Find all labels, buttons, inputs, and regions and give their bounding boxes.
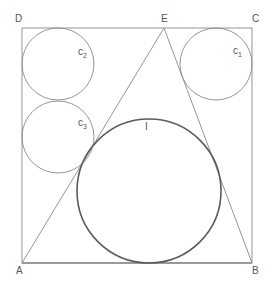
label-c3-sub: 3	[83, 123, 87, 130]
label-c1: c1	[233, 45, 242, 58]
circle-i	[77, 119, 221, 263]
label-c3: c3	[78, 117, 87, 130]
label-c1-sub: 1	[238, 51, 242, 58]
label-i: I	[145, 121, 148, 132]
geometry-diagram: D E C A B c1 c2 c3 I	[0, 0, 275, 287]
segment-be	[164, 28, 252, 263]
circle-c1	[180, 28, 252, 100]
label-c2: c2	[78, 46, 87, 59]
label-c2-sub: 2	[83, 52, 87, 59]
square-abcd	[22, 28, 252, 263]
circle-c2	[22, 28, 94, 100]
label-b: B	[252, 265, 259, 276]
label-a: A	[16, 265, 23, 276]
label-c: C	[252, 13, 259, 24]
label-d: D	[15, 13, 22, 24]
label-e: E	[161, 13, 168, 24]
